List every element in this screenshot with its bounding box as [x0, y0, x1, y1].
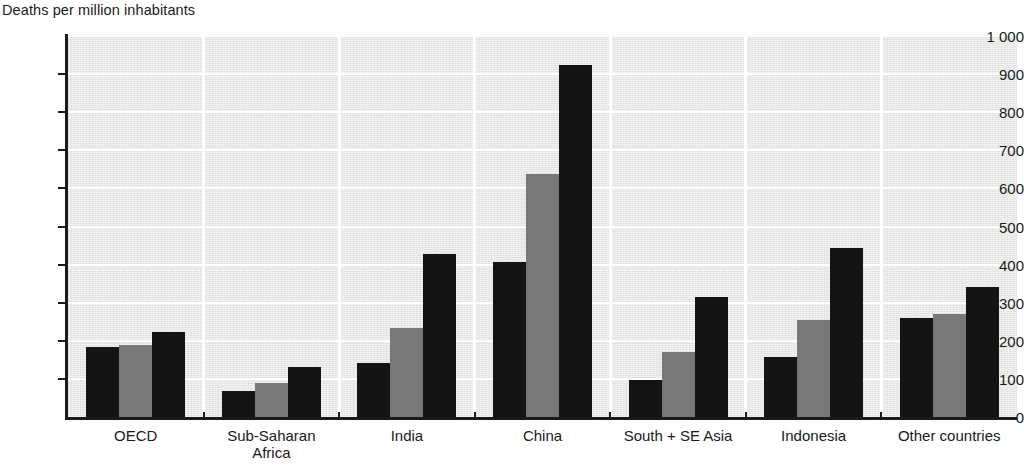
category-label-line: India	[339, 427, 475, 444]
bar	[86, 347, 119, 417]
bar	[255, 383, 288, 417]
y-axis-label-800: 800	[968, 105, 1024, 120]
category-label: OECD	[68, 427, 204, 444]
bar	[288, 367, 321, 417]
bar	[423, 254, 456, 417]
bar	[357, 363, 390, 417]
bar	[390, 328, 423, 417]
y-axis-label-600: 600	[968, 181, 1024, 196]
category-label-line: Sub-Saharan	[204, 427, 340, 444]
bar-group	[339, 36, 475, 417]
bar	[222, 391, 255, 417]
y-tick-100	[58, 378, 66, 380]
bar	[933, 314, 966, 417]
category-label-line: Africa	[204, 444, 340, 461]
y-tick-500	[58, 226, 66, 228]
bar-group	[204, 36, 340, 417]
category-label: South + SE Asia	[610, 427, 746, 444]
bars-layer	[68, 36, 1017, 417]
bar	[797, 320, 830, 417]
bar	[559, 65, 592, 417]
bar	[764, 357, 797, 417]
category-label-line: OECD	[68, 427, 204, 444]
chart-title: Deaths per million inhabitants	[2, 2, 195, 18]
category-label-line: Indonesia	[746, 427, 882, 444]
bar	[526, 174, 559, 417]
y-tick-400	[58, 264, 66, 266]
y-axis-label-300: 300	[968, 296, 1024, 311]
y-tick-200	[58, 340, 66, 342]
y-axis-label-500: 500	[968, 220, 1024, 235]
x-tick-5	[745, 412, 747, 420]
y-tick-300	[58, 302, 66, 304]
x-tick-6	[880, 412, 882, 420]
y-tick-600	[58, 187, 66, 189]
category-label: China	[475, 427, 611, 444]
y-tick-800	[58, 111, 66, 113]
bar	[662, 352, 695, 417]
chart-root: Deaths per million inhabitants 010020030…	[0, 0, 1024, 469]
bar	[695, 297, 728, 417]
x-tick-4	[609, 412, 611, 420]
bar-group	[475, 36, 611, 417]
bar-group	[68, 36, 204, 417]
y-axis-label-200: 200	[968, 334, 1024, 349]
bar	[900, 318, 933, 417]
bar-group	[746, 36, 882, 417]
category-label: Other countries	[881, 427, 1017, 444]
bar	[152, 332, 185, 417]
bar	[493, 262, 526, 417]
y-axis-label-700: 700	[968, 143, 1024, 158]
y-axis-label-400: 400	[968, 258, 1024, 273]
y-axis-label-0: 0	[968, 410, 1024, 425]
category-label: Sub-SaharanAfrica	[204, 427, 340, 461]
y-axis-label-900: 900	[968, 67, 1024, 82]
x-tick-2	[338, 412, 340, 420]
x-tick-3	[474, 412, 476, 420]
x-axis-line	[65, 417, 1017, 420]
category-label: India	[339, 427, 475, 444]
bar	[119, 345, 152, 417]
category-label-line: Other countries	[881, 427, 1017, 444]
bar	[830, 248, 863, 417]
x-tick-1	[203, 412, 205, 420]
y-tick-700	[58, 149, 66, 151]
bar	[629, 380, 662, 417]
category-label-line: China	[475, 427, 611, 444]
bar-group	[610, 36, 746, 417]
y-tick-900	[58, 73, 66, 75]
category-label: Indonesia	[746, 427, 882, 444]
y-axis-label-100: 100	[968, 372, 1024, 387]
y-axis-label-1000: 1 000	[968, 29, 1024, 44]
category-label-line: South + SE Asia	[610, 427, 746, 444]
